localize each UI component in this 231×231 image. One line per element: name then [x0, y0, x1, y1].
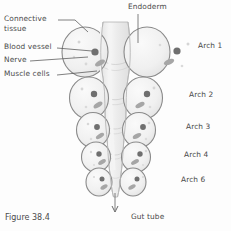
label-gut-tube: Gut tube [131, 213, 164, 222]
blood-vessel-dot [96, 151, 101, 156]
muscle-cell-dot [93, 176, 95, 178]
figure-pharyngeal-arches: Endoderm Connective tissue Blood vessel … [0, 0, 231, 231]
blood-vessel-dot [94, 124, 100, 130]
muscle-cell-dot [148, 122, 151, 125]
blood-vessel-dot [100, 177, 105, 182]
label-arch-4: Arch 4 [184, 151, 208, 160]
label-arch-6: Arch 6 [181, 176, 205, 185]
blood-vessel-dot [91, 91, 97, 97]
muscle-cell-dot [142, 164, 144, 166]
muscle-cell-dot [78, 41, 81, 44]
arch-4-left [82, 142, 111, 172]
muscle-cell-dot [93, 164, 95, 166]
muscle-cell-dot [90, 138, 92, 140]
muscle-cell-dot [85, 63, 88, 66]
label-endoderm: Endoderm [128, 3, 167, 12]
muscle-cell-dot [87, 123, 90, 126]
muscle-cell-dot [187, 43, 190, 46]
blood-vessel-dot [137, 151, 142, 156]
label-muscle-cells: Muscle cells [4, 70, 50, 79]
blood-vessel-dot [144, 91, 150, 97]
label-connective-tissue-line2: tissue [4, 25, 26, 34]
muscle-cell-dot [81, 88, 84, 91]
label-arch-3: Arch 3 [186, 123, 210, 132]
label-blood-vessel: Blood vessel [4, 43, 52, 52]
label-arch-2: Arch 2 [189, 91, 213, 100]
arch-4-right [122, 142, 151, 172]
label-connective-tissue-line1: Connective [4, 15, 47, 24]
blood-vessel-dot [91, 48, 98, 55]
arch-column-left [62, 27, 112, 196]
figure-caption: Figure 38.4 [5, 213, 50, 222]
blood-vessel-dot [140, 124, 146, 130]
muscle-cell-dot [145, 138, 147, 140]
arch-column-right [120, 27, 170, 196]
label-arch-1: Arch 1 [198, 42, 222, 51]
blood-vessel-dot [135, 177, 140, 182]
muscle-cell-dot [145, 150, 147, 152]
muscle-cell-dot [181, 65, 184, 68]
muscle-cell-dot [142, 176, 144, 178]
muscle-cell-dot [85, 106, 88, 109]
arch-6-right [120, 168, 146, 196]
muscle-cell-dot [149, 106, 152, 109]
muscle-cell-dot [159, 44, 162, 47]
label-nerve: Nerve [4, 56, 27, 65]
arch-6-left [86, 168, 112, 196]
muscle-cell-dot [153, 87, 156, 90]
diagram-artwork [0, 0, 231, 231]
blood-vessel-dot [173, 47, 180, 54]
arch-1-right [124, 27, 170, 77]
muscle-cell-dot [90, 151, 92, 153]
